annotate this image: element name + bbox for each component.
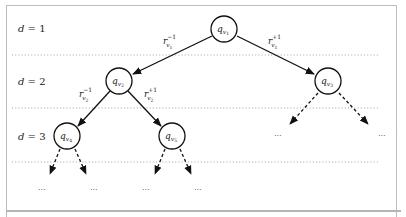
node-v3: qv3 xyxy=(315,68,341,94)
node-v5: qv5 xyxy=(159,123,185,149)
edge-label-v1-left: r−1v1 xyxy=(163,33,176,50)
level-label-2: d = 2 xyxy=(18,76,46,87)
node-v1: qv1 xyxy=(211,16,237,42)
level-label-1: d = 1 xyxy=(18,23,46,34)
edge-label-v2-right: r+1v2 xyxy=(144,86,157,103)
edge-v1-v2 xyxy=(133,36,212,74)
nodes: qv1 qv2 qv3 qv4 qv5 xyxy=(54,16,341,149)
continuation-ellipses: ... ... ... ... ... ... xyxy=(38,129,386,192)
edge-label-v2-left: r−1v2 xyxy=(79,86,92,103)
ellipsis-v5-right: ... xyxy=(194,183,202,192)
edge-v1-v3 xyxy=(237,36,314,74)
ellipsis-v3-right: ... xyxy=(378,129,386,138)
node-v2: qv2 xyxy=(106,68,132,94)
ellipsis-v4-right: ... xyxy=(90,183,98,192)
level-label-3: d = 3 xyxy=(18,131,46,142)
level-labels: d = 1 d = 2 d = 3 xyxy=(18,23,46,142)
ellipsis-v3-left: ... xyxy=(274,129,282,138)
edge-v4-left xyxy=(50,149,60,174)
edge-v5-right xyxy=(180,149,191,174)
edge-v3-right xyxy=(339,93,368,124)
edge-v5-left xyxy=(155,149,165,174)
edge-v3-left xyxy=(290,93,318,124)
edge-v4-right xyxy=(75,149,86,174)
ellipsis-v4-left: ... xyxy=(38,183,46,192)
edge-label-v1-right: r+1v1 xyxy=(268,33,281,50)
ellipsis-v5-left: ... xyxy=(142,183,150,192)
node-v4: qv4 xyxy=(54,123,80,149)
figure-frame xyxy=(6,5,401,217)
tree-diagram: d = 1 d = 2 d = 3 r−1v1 r+1v1 r−1v2 r+1v… xyxy=(0,0,406,217)
